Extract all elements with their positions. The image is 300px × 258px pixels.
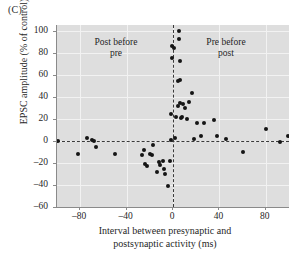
data-point <box>264 127 268 131</box>
y-tick-mark-80 <box>53 53 56 54</box>
data-point <box>162 167 166 171</box>
data-point <box>145 164 149 168</box>
x-tick-mark-0 <box>172 207 173 210</box>
data-point <box>155 170 159 174</box>
y-axis-title: EPSC amplitude (% of control) <box>18 0 29 147</box>
data-point <box>92 139 96 143</box>
annotation-post-before-pre-line1: Post before <box>79 37 153 48</box>
data-point <box>187 100 191 104</box>
gridline-x-80 <box>266 25 267 207</box>
x-tick-label--80: –80 <box>64 211 94 221</box>
y-tick-mark-100 <box>53 31 56 32</box>
x-tick-mark-40 <box>218 207 219 210</box>
y-tick-mark--60 <box>53 207 56 208</box>
data-point <box>180 115 184 119</box>
y-tick-mark--40 <box>53 185 56 186</box>
data-point <box>161 159 165 163</box>
data-point <box>56 139 60 143</box>
data-point <box>185 117 189 121</box>
plot-area: Post before pre Pre before post <box>56 25 289 208</box>
y-tick-label--60: –60 <box>20 201 48 211</box>
annotation-pre-before-post-line1: Pre before <box>189 37 263 48</box>
data-point <box>212 118 216 122</box>
data-point <box>177 29 181 33</box>
x-tick-label--40: –40 <box>111 211 141 221</box>
data-point <box>140 153 144 157</box>
data-point <box>166 184 170 188</box>
data-point <box>183 106 187 110</box>
annotation-post-before-pre: Post before pre <box>79 37 153 59</box>
x-axis-title-line2: postsynaptic activity (ms) <box>40 237 290 250</box>
x-tick-mark--80 <box>79 207 80 210</box>
data-point <box>172 46 176 50</box>
data-point <box>85 136 89 140</box>
y-tick-mark-20 <box>53 119 56 120</box>
data-point <box>199 134 203 138</box>
data-point <box>170 56 174 60</box>
data-point <box>94 145 98 149</box>
data-point <box>192 137 196 141</box>
data-point <box>142 148 146 152</box>
x-tick-mark-80 <box>265 207 266 210</box>
annotation-pre-before-post-line2: post <box>189 48 263 59</box>
y-tick-mark-0 <box>53 141 56 142</box>
data-point <box>178 78 182 82</box>
data-point <box>195 121 199 125</box>
y-tick-mark-40 <box>53 97 56 98</box>
data-point <box>168 159 172 163</box>
data-point <box>286 134 289 138</box>
data-point <box>241 150 245 154</box>
x-axis-title-line1: Interval between presynaptic and <box>40 224 290 237</box>
x-axis-title: Interval between presynaptic and postsyn… <box>40 224 290 250</box>
x-tick-mark--40 <box>126 207 127 210</box>
data-point <box>278 140 282 144</box>
x-tick-label-80: 80 <box>250 211 280 221</box>
y-tick-label--40: –40 <box>20 179 48 189</box>
figure-panel-c: (C) Post before pre Pre before post 1008… <box>0 0 300 258</box>
x-tick-label-0: 0 <box>157 211 187 221</box>
data-point <box>202 121 206 125</box>
y-tick-label--20: –20 <box>20 157 48 167</box>
gridline-y--60 <box>57 207 289 208</box>
data-point <box>150 153 154 157</box>
x-tick-label-40: 40 <box>203 211 233 221</box>
annotation-pre-before-post: Pre before post <box>189 37 263 59</box>
data-point <box>190 91 194 95</box>
y-tick-mark--20 <box>53 163 56 164</box>
data-point <box>76 152 80 156</box>
annotation-post-before-pre-line2: pre <box>79 48 153 59</box>
data-point <box>151 143 155 147</box>
data-point <box>169 138 173 142</box>
data-point <box>173 136 177 140</box>
data-point <box>163 172 167 176</box>
data-point <box>178 59 182 63</box>
y-tick-mark-60 <box>53 75 56 76</box>
data-point <box>113 152 117 156</box>
data-point <box>158 163 162 167</box>
data-point <box>177 37 181 41</box>
